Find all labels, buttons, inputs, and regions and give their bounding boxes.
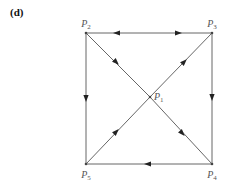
edge-p1-p2 [86,33,150,97]
edge-p1-p3 [150,33,212,97]
node-p4 [211,163,214,166]
node-p3 [211,32,214,35]
arrowhead-down-right-icon [112,58,121,67]
edges-group [86,33,212,164]
node-label-p3: P3 [206,18,217,31]
node-p2 [85,32,88,35]
arrowhead-down-right-icon [178,129,187,138]
node-p5 [85,163,88,166]
node-label-p4: P4 [206,169,217,182]
arrowhead-down-icon [209,94,214,101]
node-labels-group: P1P2P3P4P5 [80,18,217,182]
arrowhead-right-icon [175,30,182,35]
arrowhead-down-icon [83,95,88,102]
node-label-p5: P5 [80,169,91,182]
node-label-p2: P2 [80,18,91,31]
directed-graph-diagram: P1P2P3P4P5 [0,0,230,183]
node-p1 [149,96,152,99]
arrowhead-left-icon [144,161,151,166]
arrowhead-left-icon [113,30,120,35]
